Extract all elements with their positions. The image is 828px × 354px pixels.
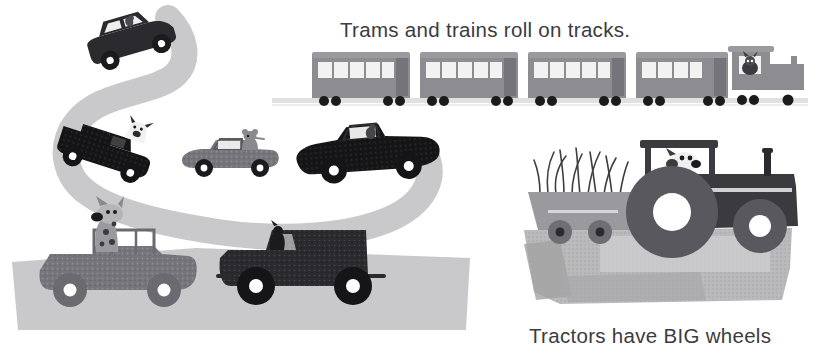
- illustration-canvas: [0, 0, 828, 354]
- tram-carriage: [528, 52, 626, 106]
- illustration-page: Trams and trains roll on tracks. Tractor…: [0, 0, 828, 354]
- tram-carriage: [420, 52, 518, 106]
- driver-mouse: [242, 129, 264, 150]
- caption-tractors-have-big-wheels: Tractors have BIG wheels: [529, 324, 771, 348]
- vehicle-gray-convertible: [182, 129, 279, 177]
- tram-carriages: [312, 52, 728, 106]
- grass-cargo: [534, 148, 628, 194]
- locomotive: [728, 46, 804, 106]
- caption-trams-and-trains: Trams and trains roll on tracks.: [340, 18, 630, 42]
- tram-carriage: [312, 52, 410, 106]
- tram-carriage: [636, 52, 728, 106]
